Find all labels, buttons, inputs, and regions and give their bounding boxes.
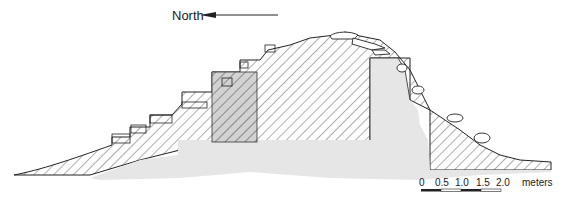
north-label: North — [172, 8, 204, 23]
scale-tick-2-0: 2.0 — [496, 177, 510, 188]
scale-bar: 0 0.5 1.0 1.5 2.0 meters — [419, 177, 553, 192]
inner-block — [212, 72, 257, 142]
scale-segment-1 — [421, 189, 441, 192]
scale-segment-3 — [461, 189, 481, 192]
cross-section-diagram: North 0 0.5 1.0 1.5 2.0 meters — [0, 0, 569, 204]
north-arrow-icon — [200, 12, 278, 18]
scale-unit: meters — [522, 177, 553, 188]
scale-tick-1-0: 1.0 — [455, 177, 469, 188]
scale-tick-1-5: 1.5 — [476, 177, 490, 188]
scale-tick-0: 0 — [419, 177, 425, 188]
scale-segment-4 — [481, 189, 501, 192]
scale-segment-2 — [441, 189, 461, 192]
scale-tick-0-5: 0.5 — [435, 177, 449, 188]
